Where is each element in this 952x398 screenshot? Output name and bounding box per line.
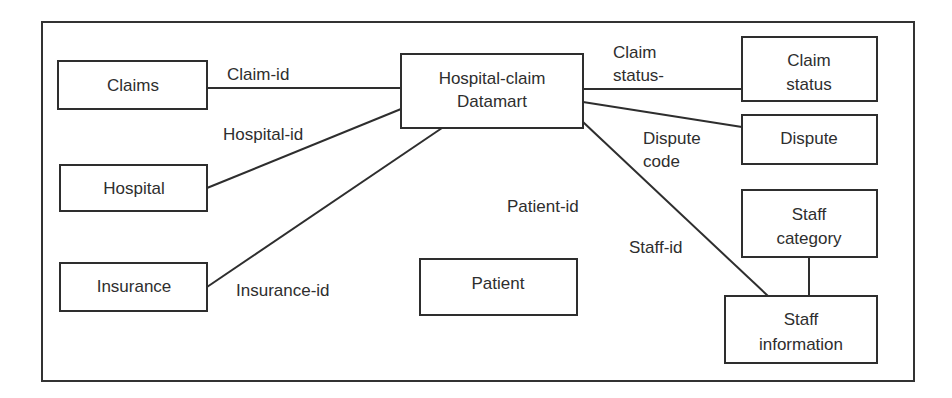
entity-datamart[interactable]: Hospital-claim Datamart (401, 54, 583, 128)
entity-label-line-1: Staff (792, 205, 827, 224)
entity-label-line-1: Claim (787, 51, 830, 70)
entity-label-line-2: Datamart (457, 92, 527, 111)
er-diagram: Claims Hospital Insurance Hospital-claim… (0, 0, 952, 398)
edge-label-claim-status-line-1: Claim (613, 43, 656, 62)
entity-staff-information[interactable]: Staff information (725, 296, 877, 363)
edge-label-claim-id: Claim-id (227, 65, 289, 84)
edge-label-patient-id: Patient-id (507, 197, 579, 216)
edge-label-staff-id: Staff-id (629, 238, 683, 257)
edge-insurance-datamart (207, 128, 442, 287)
entity-label: Insurance (97, 277, 172, 296)
entity-box (401, 54, 583, 128)
entity-label-line-2: category (776, 229, 842, 248)
edge-label-claim-status-line-2: status- (613, 66, 664, 85)
edge-datamart-dispute (583, 102, 742, 127)
entity-label-line-1: Staff (784, 310, 819, 329)
edge-label-insurance-id: Insurance-id (236, 281, 330, 300)
edge-label-dispute-code-line-2: code (643, 152, 680, 171)
entity-label: Dispute (780, 129, 838, 148)
entity-label-line-2: status (786, 75, 831, 94)
entity-label: Claims (107, 76, 159, 95)
entity-staff-category[interactable]: Staff category (742, 190, 877, 257)
entity-dispute[interactable]: Dispute (742, 115, 877, 164)
entity-hospital[interactable]: Hospital (60, 165, 207, 211)
entity-label: Patient (472, 274, 525, 293)
entity-label: Hospital (103, 179, 164, 198)
entity-claims[interactable]: Claims (58, 61, 207, 109)
edge-datamart-staff-information (583, 122, 768, 296)
edge-label-dispute-code-line-1: Dispute (643, 129, 701, 148)
entity-label-line-2: information (759, 335, 843, 354)
entity-patient[interactable]: Patient (420, 259, 577, 315)
entity-claim-status[interactable]: Claim status (742, 37, 877, 101)
entity-label-line-1: Hospital-claim (439, 69, 546, 88)
entity-insurance[interactable]: Insurance (60, 263, 207, 311)
edge-label-hospital-id: Hospital-id (223, 125, 303, 144)
